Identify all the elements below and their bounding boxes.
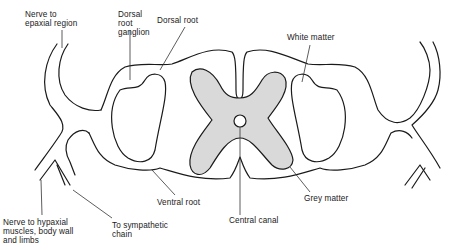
cord-outline-right-inner bbox=[412, 42, 440, 168]
left-ganglion bbox=[112, 74, 166, 161]
central-canal-circle bbox=[234, 115, 246, 127]
spinal-cord-diagram bbox=[0, 0, 457, 250]
right-branch bbox=[405, 165, 430, 185]
label-dorsal-root: Dorsal root bbox=[157, 16, 198, 25]
leader-sympathetic bbox=[73, 190, 112, 218]
left-branch-a bbox=[40, 160, 70, 185]
label-ventral-root: Ventral root bbox=[157, 198, 200, 207]
label-to-sympathetic-chain: To sympathetic chain bbox=[112, 221, 168, 239]
right-ganglion bbox=[291, 74, 345, 161]
label-grey-matter: Grey matter bbox=[304, 194, 348, 203]
label-white-matter: White matter bbox=[287, 33, 335, 42]
right-branch-b bbox=[412, 168, 425, 188]
left-nerve-outer bbox=[35, 44, 63, 170]
label-central-canal: Central canal bbox=[229, 216, 279, 225]
leader-ventral-root bbox=[152, 170, 175, 195]
left-nerve-lower bbox=[66, 130, 89, 175]
label-nerve-to-epaxial: Nerve to epaxial region bbox=[25, 10, 77, 28]
label-nerve-to-hypaxial: Nerve to hypaxial muscles, body wall and… bbox=[3, 218, 74, 245]
left-nerve-inner bbox=[59, 44, 101, 110]
label-dorsal-root-ganglion: Dorsal root ganglion bbox=[118, 10, 150, 37]
leader-grey-matter bbox=[290, 167, 310, 192]
leader-hypaxial bbox=[41, 180, 42, 215]
